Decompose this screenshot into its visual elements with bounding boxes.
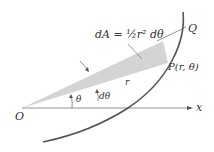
polar-area-diagram: [0, 0, 214, 152]
area-wedge: [22, 41, 168, 108]
dtheta-label: dθ: [99, 92, 110, 101]
theta-arrow-icon: [69, 94, 73, 98]
point-q-label: Q: [188, 23, 197, 34]
x-axis-label: x: [196, 102, 202, 113]
point-p-label: P(r, θ): [168, 62, 199, 72]
x-axis-arrow-icon: [187, 106, 193, 110]
origin-label: O: [15, 111, 24, 122]
formula-label: dA = ½r² dθ: [95, 29, 164, 40]
radius-label: r: [125, 78, 129, 87]
theta-label: θ: [76, 95, 81, 104]
